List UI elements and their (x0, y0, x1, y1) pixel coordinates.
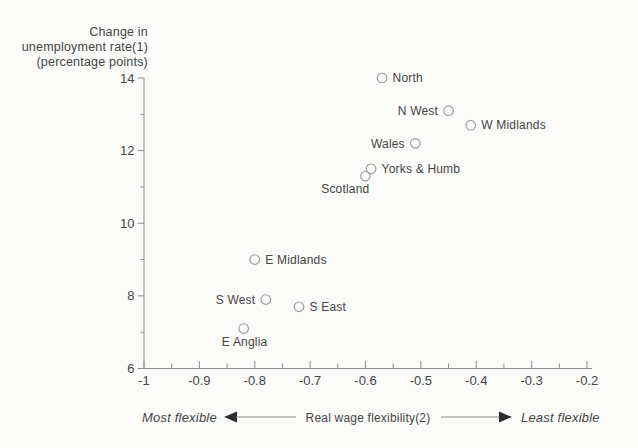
y-tick-label: 8 (127, 288, 134, 303)
x-tick-label: -0.9 (188, 373, 210, 388)
x-tick-label: -0.2 (576, 373, 598, 388)
data-point-label-wales: Wales (371, 137, 405, 151)
y-axis-title-line-1: Change in (89, 25, 148, 39)
data-point-label-w-midlands: W Midlands (481, 118, 546, 132)
x-tick-label: -0.3 (520, 373, 542, 388)
x-tick-label: -0.8 (244, 373, 266, 388)
x-tick-label: -1 (138, 373, 150, 388)
scatter-chart: Change in unemployment rate(1) (percenta… (0, 0, 638, 448)
y-tick-label: 10 (120, 216, 134, 231)
x-tick-label: -0.5 (410, 373, 432, 388)
least-flexible-label: Least flexible (521, 410, 600, 425)
y-tick-label: 6 (127, 361, 134, 376)
y-tick-label: 14 (120, 71, 134, 86)
y-axis-title-line-3: (percentage points) (36, 55, 148, 69)
y-tick-label: 12 (120, 143, 134, 158)
x-axis-annotation: Most flexible Real wage flexibility(2) L… (142, 410, 600, 425)
x-tick-label: -0.7 (299, 373, 321, 388)
data-point-label-s-west: S West (216, 293, 256, 307)
data-point-label-yorks-humb: Yorks & Humb (382, 162, 461, 176)
most-flexible-label: Most flexible (142, 410, 217, 425)
y-axis-title-line-2: unemployment rate(1) (22, 40, 148, 54)
data-point-label-s-east: S East (310, 300, 347, 314)
x-tick-label: -0.4 (465, 373, 487, 388)
data-point-label-e-anglia: E Anglia (222, 335, 268, 349)
data-point-label-e-midlands: E Midlands (265, 253, 326, 267)
x-tick-label: -0.6 (354, 373, 376, 388)
data-point-label-north: North (393, 71, 423, 85)
x-axis-label: Real wage flexibility(2) (306, 411, 431, 425)
data-point-label-scotland: Scotland (321, 182, 369, 196)
data-point-label-n-west: N West (398, 104, 439, 118)
chart-figure: Change in unemployment rate(1) (percenta… (0, 0, 638, 448)
